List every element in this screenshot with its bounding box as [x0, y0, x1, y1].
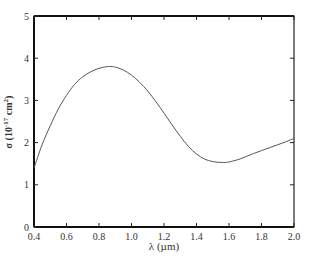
y-tick-label: 4 — [24, 53, 29, 64]
y-axis-label: σ (10-17 cm2) — [2, 96, 15, 149]
y-axis-ticks: 012345 — [24, 11, 294, 233]
x-tick-label: 0.6 — [60, 231, 73, 242]
x-axis-label: λ (µm) — [149, 240, 180, 253]
x-tick-label: 0.4 — [28, 231, 41, 242]
y-tick-label: 3 — [24, 95, 29, 106]
y-tick-label: 1 — [24, 179, 29, 190]
chart-svg: 0.40.60.81.01.21.41.61.82.0 012345 λ (µm… — [0, 0, 310, 264]
x-tick-label: 1.6 — [223, 231, 236, 242]
x-tick-label: 2.0 — [288, 231, 301, 242]
x-tick-label: 1.4 — [190, 231, 203, 242]
plot-frame — [34, 16, 294, 227]
x-tick-label: 1.8 — [255, 231, 268, 242]
y-tick-label: 2 — [24, 137, 29, 148]
cross-section-chart: 0.40.60.81.01.21.41.61.82.0 012345 λ (µm… — [0, 0, 310, 264]
x-tick-label: 1.0 — [125, 231, 138, 242]
y-tick-label: 5 — [24, 11, 29, 22]
data-curve — [34, 67, 294, 168]
x-axis-ticks: 0.40.60.81.01.21.41.61.82.0 — [28, 16, 301, 242]
x-tick-label: 0.8 — [93, 231, 106, 242]
y-tick-label: 0 — [24, 222, 29, 233]
